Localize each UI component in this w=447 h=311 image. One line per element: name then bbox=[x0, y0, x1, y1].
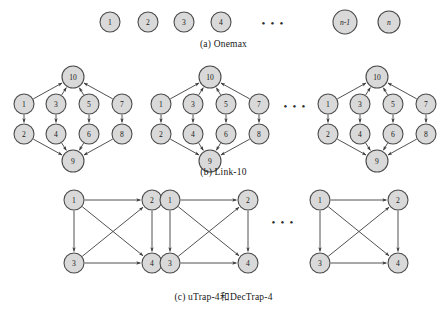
panel-b-group-1-node-label-7: 7 bbox=[120, 100, 124, 109]
panel-c-group-2-edge-3-to-2 bbox=[178, 207, 239, 256]
panel-c-group-1-edge-1-to-4 bbox=[82, 207, 143, 256]
panel-b-group-3-node-label-1: 1 bbox=[326, 100, 330, 109]
panel-c-group-1-node-label-4: 4 bbox=[150, 259, 154, 268]
panel-b-group-3-edge-4-to-9 bbox=[366, 143, 371, 150]
panel-b-group-2-node-label-4: 4 bbox=[191, 130, 195, 139]
panel-a-ellipsis-1: • • • bbox=[261, 17, 284, 29]
panel-b-group-2-node-label-1: 1 bbox=[159, 100, 163, 109]
panel-c-group-2-node-label-1: 1 bbox=[168, 196, 172, 205]
panel-b-group-3-edge-3-to-10 bbox=[366, 88, 371, 95]
panel-b-group-2-edge-6-to-9 bbox=[216, 143, 220, 150]
panel-c-group-1-node-label-1: 1 bbox=[72, 196, 76, 205]
panel-b-group-2-edge-5-to-10 bbox=[216, 88, 220, 95]
panel-b-group-2-edge-3-to-10 bbox=[199, 88, 204, 95]
panel-c-group-2-node-label-2: 2 bbox=[246, 196, 250, 205]
panel-c-group-3-node-label-4: 4 bbox=[396, 259, 400, 268]
panel-a-node-label-n-1: n-1 bbox=[340, 18, 350, 27]
panel-c-group-1-edge-3-to-2 bbox=[82, 207, 143, 256]
panel-b-group-1-node-label-3: 3 bbox=[54, 100, 58, 109]
panel-c-group-3-node-label-2: 2 bbox=[396, 196, 400, 205]
panel-b-group-2-edge-4-to-9 bbox=[199, 143, 204, 150]
panel-b-group-2-node-label-7: 7 bbox=[257, 100, 261, 109]
panel-b-group-1-node-label-5: 5 bbox=[87, 100, 91, 109]
panel-b-group-3-node-label-7: 7 bbox=[424, 100, 428, 109]
panel-b-ellipsis-1: • • • bbox=[283, 100, 306, 112]
panel-a-caption: (a) Onemax bbox=[0, 39, 447, 49]
nodes-layer: 1234n-1n10135724689101357246891013572468… bbox=[14, 10, 436, 273]
panel-b-group-3-node-label-3: 3 bbox=[358, 100, 362, 109]
panel-b-group-1-edge-5-to-10 bbox=[79, 88, 83, 95]
panel-c-group-2-node-label-3: 3 bbox=[168, 259, 172, 268]
panel-b-group-1-edge-4-to-9 bbox=[62, 143, 67, 150]
panel-c-group-3-node-label-3: 3 bbox=[318, 259, 322, 268]
panel-b-group-1-node-label-6: 6 bbox=[87, 130, 91, 139]
panel-c-group-1-node-label-3: 3 bbox=[72, 259, 76, 268]
panel-b-group-2-node-label-5: 5 bbox=[224, 100, 228, 109]
panel-a-node-label-n: n bbox=[387, 18, 391, 27]
panel-b-group-1-edge-3-to-10 bbox=[62, 88, 67, 95]
panel-c-group-2-node-label-4: 4 bbox=[246, 259, 250, 268]
panel-c-group-2-edge-1-to-4 bbox=[178, 207, 239, 256]
panel-c-group-3-edge-1-to-4 bbox=[328, 207, 389, 256]
panel-b-group-2-node-label-3: 3 bbox=[191, 100, 195, 109]
panel-a-node-label-2: 2 bbox=[146, 18, 150, 27]
panel-a-node-label-3: 3 bbox=[182, 18, 186, 27]
panel-a-node-label-1: 1 bbox=[108, 18, 112, 27]
panel-b-group-2-node-label-2: 2 bbox=[159, 130, 163, 139]
panel-b-group-2-node-label-10: 10 bbox=[206, 73, 214, 82]
panel-b-group-3-node-label-10: 10 bbox=[373, 73, 381, 82]
panel-b-group-1-node-label-2: 2 bbox=[22, 130, 26, 139]
panel-a-node-label-4: 4 bbox=[219, 18, 223, 27]
panel-c-caption: (c) uTrap-4和DecTrap-4 bbox=[0, 289, 447, 303]
panel-b-group-1-node-label-4: 4 bbox=[54, 130, 58, 139]
panel-b-group-3-node-label-8: 8 bbox=[424, 130, 428, 139]
panel-b-group-3-node-label-5: 5 bbox=[391, 100, 395, 109]
panel-b-group-1-node-label-10: 10 bbox=[69, 73, 77, 82]
panel-b-group-3-node-label-4: 4 bbox=[358, 130, 362, 139]
panel-b-group-3-edge-5-to-10 bbox=[383, 88, 387, 95]
panel-b-group-3-node-label-2: 2 bbox=[326, 130, 330, 139]
panel-b-group-3-node-label-9: 9 bbox=[375, 157, 379, 166]
panel-c-group-3-node-label-1: 1 bbox=[318, 196, 322, 205]
panel-c-ellipsis-1: • • • bbox=[271, 216, 294, 228]
panel-c-group-1-node-label-2: 2 bbox=[150, 196, 154, 205]
panel-b-caption: (b) Link-10 bbox=[0, 167, 447, 177]
panel-b-group-2-node-label-8: 8 bbox=[257, 130, 261, 139]
panel-b-group-1-node-label-1: 1 bbox=[22, 100, 26, 109]
panel-b-group-1-node-label-8: 8 bbox=[120, 130, 124, 139]
figure-root: 1234n-1n10135724689101357246891013572468… bbox=[0, 0, 447, 311]
panel-b-group-2-node-label-6: 6 bbox=[224, 130, 228, 139]
panel-b-group-2-node-label-9: 9 bbox=[208, 157, 212, 166]
panel-b-group-1-node-label-9: 9 bbox=[71, 157, 75, 166]
panel-c-group-3-edge-3-to-2 bbox=[328, 207, 389, 256]
panel-b-group-1-edge-6-to-9 bbox=[79, 143, 83, 150]
panel-b-group-3-node-label-6: 6 bbox=[391, 130, 395, 139]
panel-b-group-3-edge-6-to-9 bbox=[383, 143, 387, 150]
